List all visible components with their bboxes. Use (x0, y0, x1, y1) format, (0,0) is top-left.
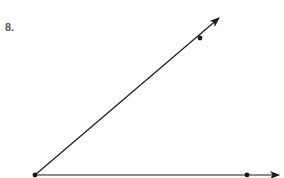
upper-ray (35, 18, 219, 175)
upper-ray-point (198, 36, 203, 41)
angle-diagram (0, 0, 284, 178)
vertex-point (33, 173, 38, 178)
lower-ray-point (245, 173, 250, 178)
